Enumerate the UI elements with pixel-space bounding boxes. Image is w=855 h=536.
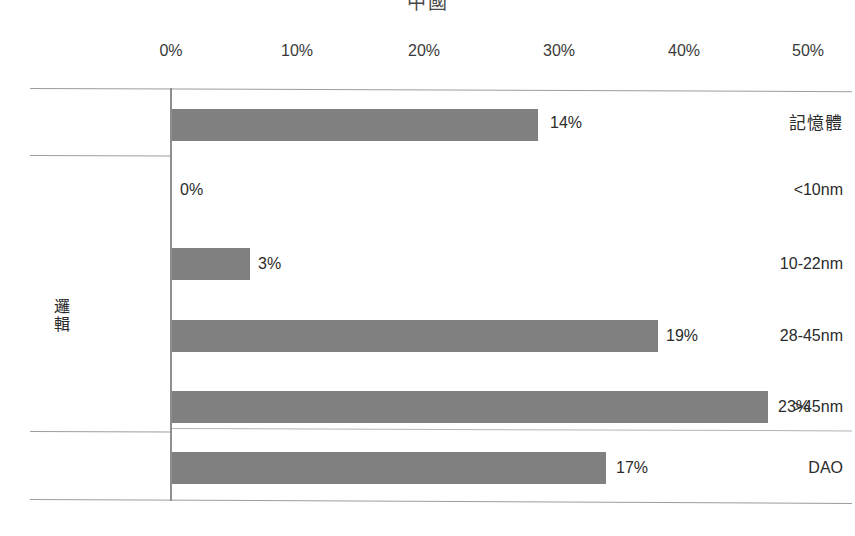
category-label-sub10nm: <10nm — [705, 182, 855, 198]
group-label-logic-line1: 邏 — [40, 298, 84, 316]
bar-28-45nm — [172, 320, 658, 352]
chart-container: 中國 0% 10% 20% 30% 40% 50% 邏 輯 記憶體 14% <1… — [0, 0, 855, 536]
x-axis-tick-labels: 0% 10% 20% 30% 40% 50% — [0, 42, 855, 70]
bar-10-22nm — [172, 248, 250, 280]
x-tick-0: 0% — [159, 42, 182, 60]
plot-bottom-border — [30, 499, 852, 504]
bar-value-sub10nm: 0% — [180, 182, 203, 198]
group-label-logic: 邏 輯 — [40, 298, 84, 335]
group-separator-logic — [30, 431, 171, 433]
category-label-28-45nm: 28-45nm — [705, 328, 855, 344]
x-tick-40: 40% — [668, 42, 700, 60]
x-tick-10: 10% — [281, 42, 313, 60]
category-label-10-22nm: 10-22nm — [705, 256, 855, 272]
x-tick-20: 20% — [408, 42, 440, 60]
bar-value-10-22nm: 3% — [258, 256, 281, 272]
plot-top-border — [30, 88, 852, 92]
bar-value-over45nm: 23% — [778, 399, 810, 415]
category-label-memory: 記憶體 — [705, 115, 855, 132]
chart-title: 中國 — [0, 0, 855, 14]
category-label-dao: DAO — [705, 460, 855, 476]
group-separator-dao-top — [171, 428, 852, 431]
bar-over45nm — [172, 391, 768, 423]
bar-value-memory: 14% — [550, 115, 582, 131]
x-tick-50: 50% — [792, 42, 824, 60]
group-separator-memory — [30, 155, 171, 157]
bar-dao — [172, 452, 606, 484]
x-tick-30: 30% — [543, 42, 575, 60]
y-axis-line — [170, 88, 172, 501]
group-label-logic-line2: 輯 — [40, 316, 84, 334]
bar-memory — [172, 109, 538, 141]
bar-value-28-45nm: 19% — [666, 328, 698, 344]
bar-value-dao: 17% — [616, 460, 648, 476]
